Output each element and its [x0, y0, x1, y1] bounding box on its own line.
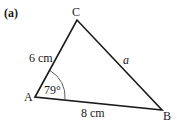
part-label: (a): [4, 6, 18, 20]
side-label-cb: a: [123, 53, 129, 67]
vertex-label-c: C: [72, 5, 80, 19]
triangle-diagram: (a) C A B 6 cm 8 cm a 79°: [0, 0, 178, 123]
side-label-ab: 8 cm: [81, 106, 105, 120]
vertex-label-a: A: [24, 90, 33, 104]
vertex-label-b: B: [163, 109, 171, 123]
angle-label-a: 79°: [44, 83, 61, 97]
side-label-ac: 6 cm: [29, 51, 53, 65]
